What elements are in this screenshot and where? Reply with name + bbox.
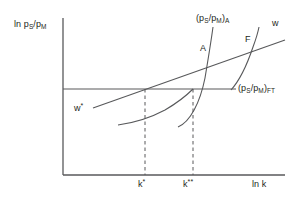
y-axis-sub-s: S — [29, 23, 33, 30]
point-a-label: A — [200, 44, 206, 53]
y-axis-sub-m: M — [41, 23, 47, 30]
ft-label-sub-ft: FT — [267, 87, 275, 94]
wage-line-label: w — [272, 19, 279, 28]
tick-label-k-star-star: k** — [183, 180, 193, 189]
plot-canvas — [0, 0, 294, 201]
curve-autarky-price — [178, 27, 213, 127]
label-sub-m: M — [216, 17, 222, 24]
tick-label-k-star: k* — [138, 180, 145, 189]
y-axis-title: ln pS/pM — [14, 20, 47, 29]
label-sub-s: S — [204, 17, 208, 24]
curve-autarky-price-label: (pS/pM)A — [196, 14, 229, 23]
curve-free-trade-price-label: (pS/pM)FT — [238, 84, 275, 93]
point-f-label: F — [245, 35, 251, 44]
ft-label-sub-m: M — [258, 87, 264, 94]
x-axis-title: ln k — [252, 180, 266, 189]
ft-label-sub-s: S — [246, 87, 250, 94]
wage-star-label: w* — [74, 104, 83, 113]
curve-lower-concave — [118, 89, 193, 125]
k-star-star-asterisk: ** — [188, 178, 194, 185]
k-star-asterisk: * — [143, 178, 146, 185]
label-sub-a: A — [225, 17, 229, 24]
economics-diagram: ln pS/pM (pS/pM)A w F A (pS/pM)FT w* k* … — [0, 0, 294, 201]
curve-wage-line — [93, 40, 285, 108]
wage-star-asterisk: * — [81, 102, 84, 109]
